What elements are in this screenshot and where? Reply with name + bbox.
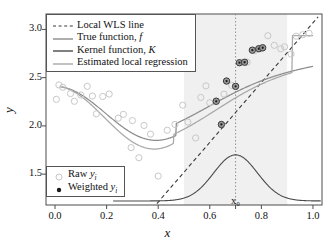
filled-circle-icon (52, 182, 65, 194)
raw-point (147, 131, 153, 137)
weighted-point-center (238, 62, 240, 64)
y-tick-label: 2.5 (14, 71, 42, 82)
raw-point (155, 173, 161, 179)
x-tick-label: 0.2 (96, 210, 118, 221)
legend-line-item: Local WLS line (49, 18, 191, 31)
legend-line-swatch-icon (52, 18, 74, 30)
x-tick-label: 0.6 (199, 210, 221, 221)
legend-line-label: Local WLS line (74, 19, 144, 30)
legend-line-item: True function, f (49, 31, 191, 44)
legend-lines-box: Local WLS lineTrue function, fKernel fun… (46, 14, 196, 72)
x-tick-label: 1.0 (302, 210, 324, 221)
raw-point (67, 90, 73, 96)
raw-point (129, 117, 135, 123)
x-axis-title: x (0, 225, 335, 241)
legend-marker-item: Raw yi (49, 169, 120, 182)
raw-point (172, 121, 178, 127)
raw-point (136, 155, 142, 161)
legend-line-label: Estimated local regression (74, 56, 188, 67)
y-axis-title: y (1, 98, 17, 122)
open-circle-icon (52, 169, 65, 181)
raw-point (164, 127, 170, 133)
legend-markers-box: Raw yiWeighted yi (46, 166, 125, 197)
y-tick-label: 1.5 (14, 167, 42, 178)
raw-point (128, 145, 134, 151)
figure-root: 0.00.20.40.60.81.0 1.52.02.53.0 x₀ x y L… (0, 0, 335, 246)
x-tick-label: 0.8 (250, 210, 272, 221)
weighted-point-center (220, 123, 222, 125)
raw-point (120, 111, 126, 117)
weighted-point-center (262, 47, 264, 49)
legend-line-swatch-icon (52, 43, 74, 55)
weighted-point-center (215, 100, 217, 102)
weighted-point-center (243, 61, 245, 63)
x0-tick-label: x₀ (225, 195, 247, 206)
raw-point (89, 93, 95, 99)
raw-point (53, 96, 59, 102)
raw-point (141, 122, 147, 128)
legend-marker-item: Weighted yi (49, 182, 120, 195)
x-tick-label: 0.4 (147, 210, 169, 221)
y-tick-label: 3.0 (14, 22, 42, 33)
legend-line-label: Kernel function, K (74, 44, 155, 55)
legend-line-item: Kernel function, K (49, 43, 191, 56)
weighted-point-center (225, 80, 227, 82)
weighted-point-center (251, 49, 253, 51)
raw-point (84, 83, 90, 89)
y-tick-label: 2.0 (14, 119, 42, 130)
legend-line-item: Estimated local regression (49, 56, 191, 69)
weighted-point-center (234, 85, 236, 87)
legend-line-swatch-icon (52, 56, 74, 68)
raw-point (71, 98, 77, 104)
legend-line-swatch-icon (52, 31, 74, 43)
legend-marker-label: Weighted yi (65, 181, 117, 195)
raw-point (300, 32, 306, 38)
raw-point (106, 91, 112, 97)
raw-point (100, 93, 106, 99)
x-tick-label: 0.0 (44, 210, 66, 221)
legend-line-label: True function, f (74, 31, 142, 42)
raw-point (93, 111, 99, 117)
raw-point (288, 51, 294, 57)
